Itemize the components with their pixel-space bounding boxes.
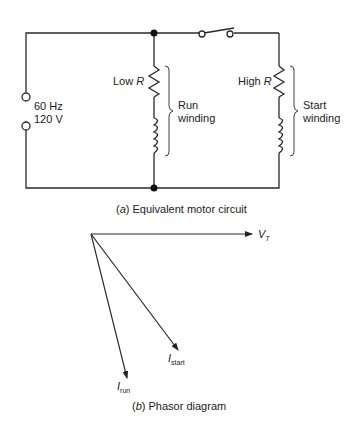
run-winding-label-2: winding [177,112,215,124]
start-brace [290,66,298,156]
source-frequency: 60 Hz [34,100,63,112]
motor-diagram: 60 Hz 120 V Low R Run winding High R Sta… [0,0,363,422]
phasors [91,234,252,378]
start-inductor [279,118,283,153]
junction-top [151,30,158,37]
switch-contact-left [199,31,205,37]
start-wire-bottom [154,153,279,188]
vt-label: VT [258,228,270,242]
run-resistor-label: Low R [113,75,144,87]
run-brace [165,66,173,156]
source-terminal-top [22,93,30,101]
source-terminal-bottom [22,122,30,130]
start-resistor [274,66,284,97]
start-winding-label-1: Start [303,99,326,111]
start-resistor-label: High R [238,75,272,87]
circuit [22,28,298,188]
run-inductor [154,118,158,153]
istart-label: Istart [168,352,185,366]
irun-label: Irun [117,380,130,394]
bottom-left-wire [26,130,154,188]
run-winding-label-1: Run [178,99,198,111]
istart-phasor [91,234,178,350]
caption-b: (b) Phasor diagram [132,400,226,412]
start-winding-label-2: winding [302,112,340,124]
caption-a: (a) Equivalent motor circuit [116,203,247,215]
source-voltage: 120 V [34,113,63,125]
irun-phasor [91,234,127,378]
junction-bottom [151,185,158,192]
switch-contact-right [227,31,233,37]
run-resistor [149,66,159,97]
